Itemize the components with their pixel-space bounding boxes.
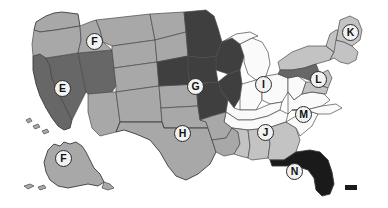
island-channel: [26, 118, 32, 123]
map-marker-l[interactable]: L: [310, 71, 327, 88]
map-marker-n[interactable]: N: [286, 163, 303, 180]
state-michigan: [240, 38, 270, 80]
hawaii-marker: [345, 185, 357, 190]
map-marker-m[interactable]: M: [295, 106, 312, 123]
state-alaska-aleutians-2: [38, 185, 46, 190]
map-marker-f-idaho[interactable]: F: [86, 33, 103, 50]
map-marker-k[interactable]: K: [342, 24, 359, 41]
map-marker-h[interactable]: H: [174, 125, 191, 142]
island-channel-2: [33, 124, 40, 129]
state-arizona: [88, 92, 120, 136]
map-marker-i[interactable]: I: [255, 76, 272, 93]
map-marker-f-alaska[interactable]: F: [55, 150, 72, 167]
state-alaska-aleutians: [24, 184, 34, 189]
island-channel-3: [42, 129, 49, 134]
map-marker-g[interactable]: G: [187, 78, 204, 95]
map-canvas: [0, 0, 388, 208]
state-new-mexico: [116, 86, 162, 122]
state-minnesota: [184, 10, 222, 58]
state-new-york: [278, 46, 334, 70]
us-choropleth-map: E F F G H I J K L M N: [0, 0, 388, 208]
state-alaska-panhandle: [102, 182, 114, 190]
map-marker-j[interactable]: J: [257, 124, 274, 141]
state-texas: [116, 122, 216, 180]
state-alaska: [44, 142, 104, 188]
map-marker-e[interactable]: E: [54, 80, 71, 97]
